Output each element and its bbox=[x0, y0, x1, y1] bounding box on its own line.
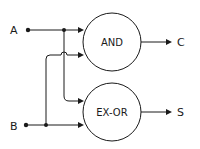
arrow-b-to-and bbox=[78, 52, 84, 58]
output-s-label: S bbox=[177, 106, 184, 119]
wire-b-to-and bbox=[46, 52, 80, 125]
arrow-xor-to-s bbox=[166, 109, 172, 115]
and-gate-label: AND bbox=[101, 37, 123, 48]
xor-gate-label: EX-OR bbox=[96, 107, 127, 118]
input-b-label: B bbox=[10, 120, 18, 133]
input-a-label: A bbox=[10, 24, 18, 37]
arrow-and-to-c bbox=[166, 39, 172, 45]
arrow-a-to-and bbox=[78, 27, 84, 33]
output-c-label: C bbox=[177, 36, 185, 49]
wire-a-to-xor bbox=[64, 30, 80, 101]
arrow-a-to-xor bbox=[78, 98, 84, 104]
arrow-b-to-xor bbox=[78, 122, 84, 128]
half-adder-diagram: A B AND C EX-OR S bbox=[0, 0, 200, 149]
